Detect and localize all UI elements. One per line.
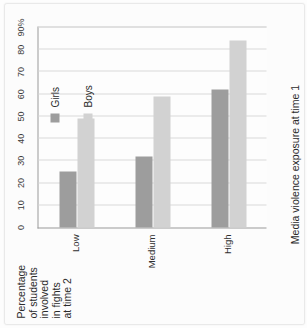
scanned-figure-card: Percentage of students involved in fight… bbox=[4, 3, 305, 325]
rotated-figure-wrapper: Percentage of students involved in fight… bbox=[5, 4, 304, 324]
screenshot-page: Percentage of students involved in fight… bbox=[0, 0, 307, 328]
value-axis-tick-label: 40 bbox=[15, 133, 25, 143]
value-axis-tick-label: 10 bbox=[15, 200, 25, 210]
bar-boys-medium bbox=[153, 96, 170, 227]
legend-item-girls[interactable]: Girls bbox=[49, 36, 60, 122]
bar-girls-medium bbox=[135, 156, 152, 227]
legend-item-boys[interactable]: Boys bbox=[82, 36, 93, 122]
legend-label-girls: Girls bbox=[49, 86, 60, 107]
girls-swatch-icon bbox=[50, 113, 59, 122]
bar-girls-low bbox=[59, 171, 76, 227]
legend-label-boys: Boys bbox=[82, 85, 93, 107]
value-axis-tick-label: 80 bbox=[15, 44, 25, 54]
category-axis-title: Media violence exposure at time 1 bbox=[288, 4, 300, 324]
chart-legend: GirlsBoys bbox=[49, 36, 115, 122]
value-axis-tick-label: 30 bbox=[15, 155, 25, 165]
category-label-high: High bbox=[222, 234, 233, 254]
value-axis-tick-label: 0 bbox=[15, 224, 25, 229]
category-axis-labels: LowMediumHigh bbox=[37, 230, 265, 284]
value-axis-tick-label: 90% bbox=[15, 18, 25, 36]
value-axis-title-line-2: of students bbox=[27, 240, 39, 318]
value-axis-tick-label: 70 bbox=[15, 66, 25, 76]
value-axis-tick-labels: 0102030405060708090% bbox=[15, 22, 35, 228]
category-label-medium: Medium bbox=[146, 234, 157, 268]
bar-chart-figure: Percentage of students involved in fight… bbox=[5, 4, 304, 324]
gridline bbox=[38, 26, 266, 27]
bar-girls-high bbox=[211, 89, 228, 227]
bar-boys-high bbox=[229, 40, 246, 227]
value-axis-tick-label: 60 bbox=[15, 89, 25, 99]
value-axis-title-line-1: Percentage bbox=[15, 240, 27, 318]
bar-boys-low bbox=[77, 118, 94, 227]
boys-swatch-icon bbox=[83, 113, 92, 122]
value-axis-tick-label: 50 bbox=[15, 111, 25, 121]
category-label-low: Low bbox=[70, 234, 81, 251]
value-axis-tick-label: 20 bbox=[15, 178, 25, 188]
